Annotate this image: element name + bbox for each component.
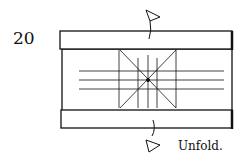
instruction-caption: Unfold. — [178, 139, 223, 153]
top-flap — [60, 31, 232, 49]
bottom-flap — [61, 110, 232, 128]
crease-pattern — [79, 50, 224, 108]
center-point — [146, 78, 149, 81]
